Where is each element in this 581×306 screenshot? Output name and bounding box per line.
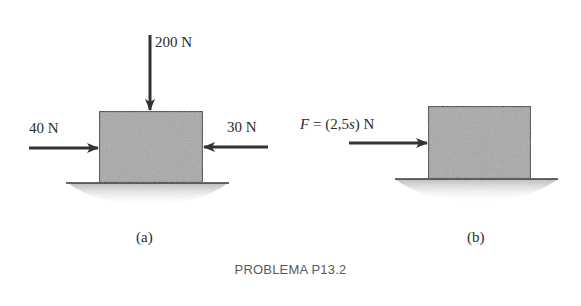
part-a-label: (a): [136, 229, 153, 246]
force-label-f: F = (2,5s) N: [300, 116, 374, 133]
force-variable: F: [300, 116, 309, 132]
block-b: [429, 107, 531, 179]
block-a: [100, 112, 203, 183]
problem-figure: [0, 0, 581, 306]
force-expression: = (2,5: [309, 116, 349, 132]
ground-shadow-b: [395, 179, 558, 201]
ground-shadow-a: [68, 183, 228, 205]
force-label-40n: 40 N: [29, 120, 59, 137]
part-b-label: (b): [467, 229, 485, 246]
force-label-30n: 30 N: [227, 119, 257, 136]
figure-caption: PROBLEMA P13.2: [0, 262, 581, 277]
force-unit: ) N: [355, 116, 375, 132]
diagram-b: [349, 107, 558, 202]
force-label-200n: 200 N: [155, 34, 192, 51]
